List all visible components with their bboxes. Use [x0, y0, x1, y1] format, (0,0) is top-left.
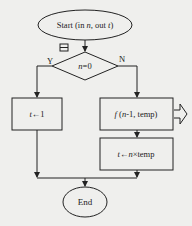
- minus-box-icon[interactable]: [60, 44, 68, 51]
- connector-no: [118, 66, 137, 97]
- recursive-call-label: f (n-1, temp): [115, 109, 158, 119]
- no-process-node-recursive-call[interactable]: f (n-1, temp): [100, 98, 173, 130]
- flowchart-canvas: Start (in n, out t) n=0 Y N t←1 f (n: [0, 0, 192, 226]
- start-label: Start (in n, out t): [57, 20, 114, 30]
- multiply-label: t←n×temp: [118, 149, 155, 159]
- no-process-node-multiply[interactable]: t←n×temp: [100, 138, 173, 170]
- end-label: End: [78, 197, 93, 207]
- yes-process-node[interactable]: t←1: [12, 98, 62, 130]
- start-node[interactable]: Start (in n, out t): [38, 10, 132, 40]
- end-node[interactable]: End: [63, 187, 107, 217]
- yes-branch-label: Y: [47, 56, 53, 66]
- decision-label: n=0: [78, 61, 91, 71]
- outline-arrow-right-icon[interactable]: [174, 104, 187, 124]
- yes-process-label: t←1: [29, 109, 44, 119]
- connector-yes: [37, 66, 52, 97]
- decision-node[interactable]: n=0: [52, 52, 118, 80]
- no-branch-label: N: [119, 54, 125, 64]
